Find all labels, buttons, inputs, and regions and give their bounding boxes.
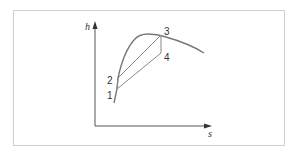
point-2-label: 2 — [107, 75, 113, 86]
point-1-label: 1 — [107, 90, 113, 101]
hs-diagram: h s 1 2 3 4 — [0, 0, 295, 155]
y-axis-arrow-icon — [93, 21, 98, 29]
x-axis-label: s — [208, 128, 212, 139]
point-3-label: 3 — [164, 26, 170, 37]
point-4-label: 4 — [164, 52, 170, 63]
y-axis-label: h — [85, 21, 90, 32]
cycle-path — [117, 35, 161, 89]
